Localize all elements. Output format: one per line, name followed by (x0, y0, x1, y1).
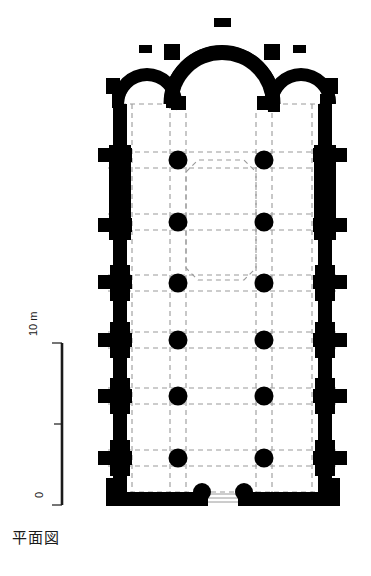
pier-arm (313, 333, 347, 347)
nave-column (255, 331, 274, 350)
pier-arm (313, 218, 347, 232)
crossing-piers (109, 145, 336, 240)
apse-junction-right (264, 44, 280, 60)
sanctuary-respond-left (171, 96, 186, 110)
facade-wall-right (239, 492, 340, 506)
pier-arm (313, 389, 347, 403)
west-pier-bay-5 (98, 378, 132, 414)
pier-arm (313, 148, 347, 162)
west-doorway (208, 494, 238, 502)
pier-arm (313, 275, 347, 289)
nave-column (169, 449, 188, 468)
nave-columns (169, 96, 274, 501)
pier-arm (98, 389, 132, 403)
crossing-dome-outline (186, 160, 256, 280)
facade-wall-left (106, 492, 206, 506)
pier-arm (98, 148, 132, 162)
east-pier-bay-6 (313, 440, 347, 476)
nave-column (255, 274, 274, 293)
west-pier-bay-4 (98, 322, 132, 358)
west-pier-bay-6 (98, 440, 132, 476)
east-pier-bay-5 (313, 378, 347, 414)
apse-junction-left (164, 44, 180, 60)
apse-buttress-northwest (106, 78, 120, 94)
nave-respond-west-left (193, 483, 211, 501)
pier-arm (98, 451, 132, 465)
apse-keystone-north (139, 45, 152, 53)
floor-plan-drawing (0, 0, 371, 576)
scale-label-max: 10 m (28, 312, 39, 336)
figure-root: 10 m 0 平面図 (0, 0, 371, 576)
pier-arm (98, 333, 132, 347)
construction-grid (108, 104, 336, 500)
nave-column (255, 449, 274, 468)
scale-label-zero: 0 (34, 492, 45, 498)
pier-arm (98, 218, 132, 232)
nave-column (255, 151, 274, 170)
scale-bar (52, 343, 62, 505)
nave-column (169, 151, 188, 170)
east-pier-bay-3 (313, 265, 347, 301)
nave-column (255, 213, 274, 232)
nave-column (255, 387, 274, 406)
west-pier-bay-3 (98, 265, 132, 301)
apse-buttress-southeast (324, 78, 338, 94)
nave-column (169, 331, 188, 350)
pier-arm (98, 275, 132, 289)
apse-keystone-south (293, 45, 306, 53)
nave-column (169, 213, 188, 232)
nave-column (169, 274, 188, 293)
nave-respond-west-right (235, 483, 253, 501)
figure-caption: 平面図 (12, 530, 60, 545)
pier-arm (313, 451, 347, 465)
east-pier-bay-4 (313, 322, 347, 358)
apse-keystone-central (214, 18, 231, 27)
nave-column (169, 387, 188, 406)
sanctuary-respond-right (257, 96, 272, 110)
